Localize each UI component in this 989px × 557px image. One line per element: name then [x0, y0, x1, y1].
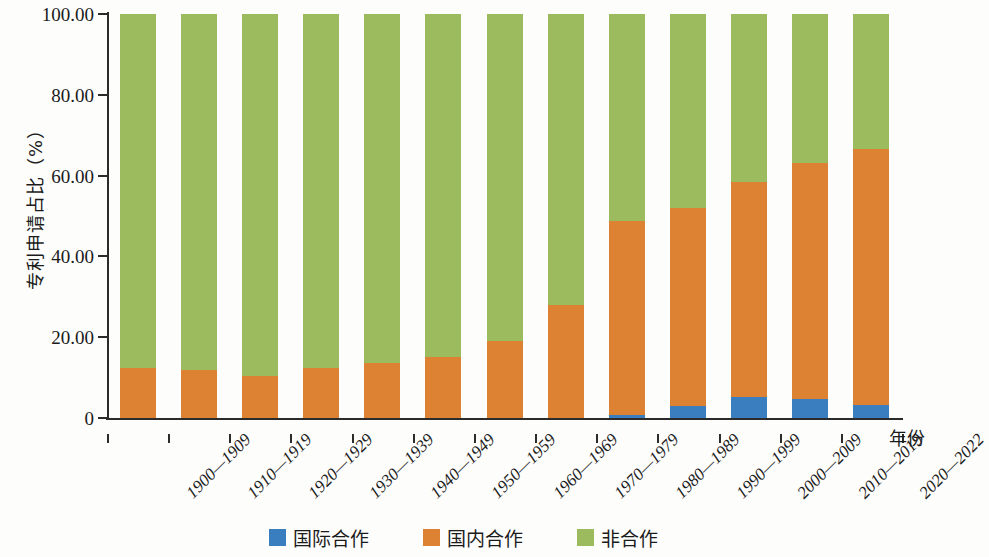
x-tick-label: 1930—1939 [365, 430, 438, 503]
y-tick-label: 40.00 [16, 247, 94, 266]
y-tick-label: 100.00 [16, 5, 94, 24]
x-tick-label: 1980—1989 [671, 430, 744, 503]
bar-stack[interactable] [792, 14, 828, 418]
x-tick-mark [168, 434, 170, 443]
bar-stack[interactable] [670, 14, 706, 418]
bar-segment[interactable] [731, 14, 767, 182]
x-tick-label: 1970—1979 [610, 430, 683, 503]
bar-segment[interactable] [548, 14, 584, 305]
y-tick-mark [98, 255, 107, 257]
bar-segment[interactable] [181, 370, 217, 418]
x-tick-label: 1910—1919 [243, 430, 316, 503]
legend-label: 非合作 [601, 524, 658, 551]
y-tick-label: 80.00 [16, 85, 94, 104]
bar-stack[interactable] [120, 14, 156, 418]
legend-item[interactable]: 非合作 [577, 524, 658, 551]
bar-segment[interactable] [181, 14, 217, 370]
y-tick-label: 0 [16, 409, 94, 428]
x-tick-mark [107, 434, 109, 443]
x-tick-label: 1940—1949 [427, 430, 500, 503]
bar-segment[interactable] [609, 221, 645, 415]
bar-segment[interactable] [487, 14, 523, 341]
bar-segment[interactable] [120, 14, 156, 368]
bar-segment[interactable] [792, 14, 828, 163]
bar-stack[interactable] [181, 14, 217, 418]
y-tick-mark [98, 175, 107, 177]
bar-segment[interactable] [120, 368, 156, 418]
bar-stack[interactable] [548, 14, 584, 418]
y-tick-label: 20.00 [16, 328, 94, 347]
y-tick-mark [98, 94, 107, 96]
bar-segment[interactable] [425, 14, 461, 357]
bar-segment[interactable] [792, 399, 828, 418]
plot-area [107, 14, 902, 418]
bar-segment[interactable] [792, 163, 828, 399]
bar-segment[interactable] [670, 14, 706, 208]
x-tick-label: 1950—1959 [488, 430, 561, 503]
bar-segment[interactable] [670, 406, 706, 418]
bar-segment[interactable] [548, 305, 584, 418]
legend-label: 国内合作 [447, 524, 523, 551]
bar-segment[interactable] [731, 182, 767, 396]
bar-segment[interactable] [364, 363, 400, 418]
x-tick-label: 2020—2022 [916, 430, 989, 503]
bar-segment[interactable] [731, 397, 767, 418]
y-axis-tick-labels: 020.0040.0060.0080.00100.00 [16, 0, 94, 557]
y-tick-mark [98, 13, 107, 15]
x-tick-label: 1960—1969 [549, 430, 622, 503]
bar-stack[interactable] [853, 14, 889, 418]
legend-swatch-icon [423, 529, 440, 546]
bar-stack[interactable] [364, 14, 400, 418]
bar-segment[interactable] [242, 376, 278, 418]
x-tick-label: 1920—1929 [304, 430, 377, 503]
bar-stack[interactable] [242, 14, 278, 418]
x-axis-line [106, 418, 903, 420]
y-tick-mark [98, 336, 107, 338]
bar-stack[interactable] [303, 14, 339, 418]
bar-segment[interactable] [425, 357, 461, 418]
bar-segment[interactable] [303, 368, 339, 419]
bar-segment[interactable] [853, 14, 889, 149]
y-tick-mark [98, 417, 107, 419]
bar-segment[interactable] [242, 14, 278, 376]
legend-swatch-icon [577, 529, 594, 546]
legend-item[interactable]: 国际合作 [269, 524, 369, 551]
y-tick-label: 60.00 [16, 166, 94, 185]
bar-segment[interactable] [609, 14, 645, 221]
legend-label: 国际合作 [293, 524, 369, 551]
x-tick-label: 2000—2009 [793, 430, 866, 503]
bar-segment[interactable] [853, 149, 889, 406]
chart-legend: 国际合作国内合作非合作 [0, 524, 927, 551]
x-tick-label: 1990—1999 [732, 430, 805, 503]
bar-segment[interactable] [853, 405, 889, 418]
bar-segment[interactable] [670, 208, 706, 406]
legend-swatch-icon [269, 529, 286, 546]
bar-stack[interactable] [609, 14, 645, 418]
bar-segment[interactable] [609, 415, 645, 418]
bar-stack[interactable] [425, 14, 461, 418]
legend-item[interactable]: 国内合作 [423, 524, 523, 551]
bar-stack[interactable] [731, 14, 767, 418]
x-tick-label: 1900—1909 [182, 430, 255, 503]
bar-segment[interactable] [364, 14, 400, 363]
bar-segment[interactable] [303, 14, 339, 368]
bar-segment[interactable] [487, 341, 523, 418]
bar-stack[interactable] [487, 14, 523, 418]
